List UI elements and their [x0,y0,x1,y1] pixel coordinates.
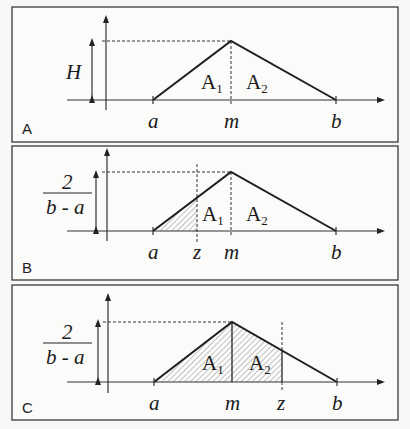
panel-label: A [22,120,32,137]
height-label: H [65,60,83,84]
x-label-m: m [225,391,240,415]
height-label-numerator: 2 [62,320,73,344]
x-label-m: m [224,240,239,264]
panel-label: B [22,259,32,276]
x-label-a: a [149,391,160,415]
panel-label: C [22,399,33,416]
height-label-denominator: b - a [46,345,85,369]
x-label-b: b [331,240,342,264]
x-label-b: b [331,109,342,133]
x-label-a: a [148,240,159,264]
x-label-z: z [276,391,285,415]
x-label-z: z [192,240,201,264]
x-label-a: a [148,109,159,133]
panel-b: 2 b - a A1 A2 a z m b B [12,146,398,280]
panel-c: 2 b - a A1 A2 a m z b C [12,285,398,420]
height-label-numerator: 2 [62,170,73,194]
x-label-m: m [224,109,239,133]
panel-a: H A1 A2 a m b A [12,7,398,142]
height-label-denominator: b - a [46,195,85,219]
x-label-b: b [332,391,343,415]
triangular-distribution-figure: H A1 A2 a m b A 2 b - a A1 A2 a z m b B [0,0,410,429]
